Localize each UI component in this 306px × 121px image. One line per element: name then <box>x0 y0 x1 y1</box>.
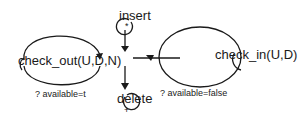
node-check-in: check_in(U,D) <box>215 47 297 62</box>
delete-marker: + <box>124 105 129 115</box>
node-check-out: check_out(U,D,N) <box>18 53 121 68</box>
insert-marker: * <box>125 21 129 31</box>
guard-right: ? available=false <box>160 88 227 98</box>
guard-left: ? available=t <box>35 89 86 99</box>
node-delete: delete <box>117 91 152 106</box>
arrowhead-icon <box>121 46 129 52</box>
node-insert: insert <box>119 8 151 23</box>
check-out-loop-bottom <box>24 66 100 85</box>
arrowhead-icon <box>121 83 129 90</box>
